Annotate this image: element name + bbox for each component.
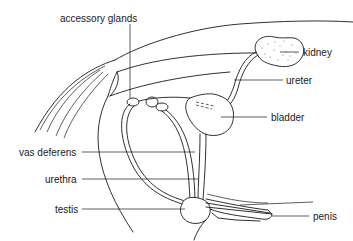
label-ureter: ureter bbox=[286, 75, 313, 86]
testis bbox=[181, 197, 211, 223]
kidney bbox=[255, 36, 304, 66]
label-kidney: kidney bbox=[303, 47, 332, 58]
anatomy-diagram: accessory glands kidney ureter bladder v… bbox=[0, 0, 353, 241]
label-accessory-glands: accessory glands bbox=[60, 13, 137, 24]
vas-deferens bbox=[122, 104, 195, 206]
label-vas-deferens: vas deferens bbox=[19, 147, 76, 158]
label-testis: testis bbox=[55, 204, 78, 215]
label-bladder: bladder bbox=[271, 112, 305, 123]
accessory-glands bbox=[127, 97, 190, 111]
label-penis: penis bbox=[313, 211, 337, 222]
label-urethra: urethra bbox=[45, 174, 77, 185]
urethra bbox=[198, 134, 206, 200]
bladder bbox=[186, 94, 234, 136]
penis bbox=[194, 194, 313, 240]
